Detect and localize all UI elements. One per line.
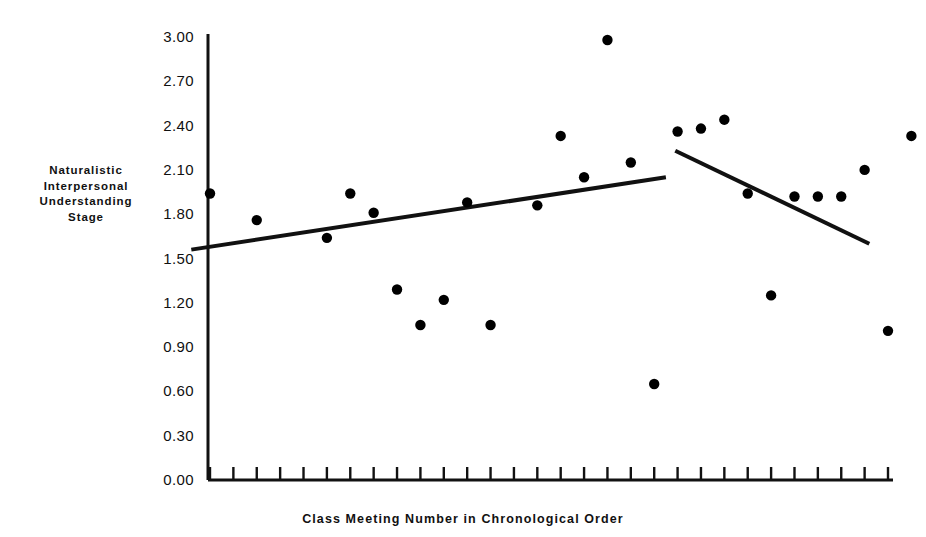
trend-lines bbox=[191, 151, 869, 250]
axes bbox=[208, 34, 893, 480]
data-point bbox=[906, 131, 916, 141]
data-point bbox=[672, 126, 682, 136]
data-point bbox=[532, 200, 542, 210]
data-point bbox=[766, 290, 776, 300]
data-point bbox=[439, 295, 449, 305]
data-point bbox=[883, 326, 893, 336]
data-points bbox=[205, 35, 917, 389]
data-point bbox=[743, 188, 753, 198]
data-point bbox=[719, 114, 729, 124]
data-point bbox=[485, 320, 495, 330]
x-axis-title: Class Meeting Number in Chronological Or… bbox=[0, 512, 926, 526]
data-point bbox=[789, 191, 799, 201]
data-point bbox=[415, 320, 425, 330]
chart-figure: Naturalistic Interpersonal Understanding… bbox=[0, 0, 926, 537]
data-point bbox=[602, 35, 612, 45]
scatter-plot-canvas bbox=[0, 0, 926, 537]
data-point bbox=[626, 157, 636, 167]
data-point bbox=[205, 188, 215, 198]
pre-break-trend bbox=[191, 177, 666, 249]
data-point bbox=[696, 123, 706, 133]
x-axis-ticks bbox=[210, 467, 888, 480]
data-point bbox=[649, 379, 659, 389]
data-point bbox=[462, 197, 472, 207]
data-point bbox=[368, 208, 378, 218]
data-point bbox=[555, 131, 565, 141]
data-point bbox=[252, 215, 262, 225]
data-point bbox=[813, 191, 823, 201]
data-point bbox=[322, 233, 332, 243]
data-point bbox=[859, 165, 869, 175]
data-point bbox=[836, 191, 846, 201]
data-point bbox=[579, 172, 589, 182]
data-point bbox=[345, 188, 355, 198]
data-point bbox=[392, 284, 402, 294]
